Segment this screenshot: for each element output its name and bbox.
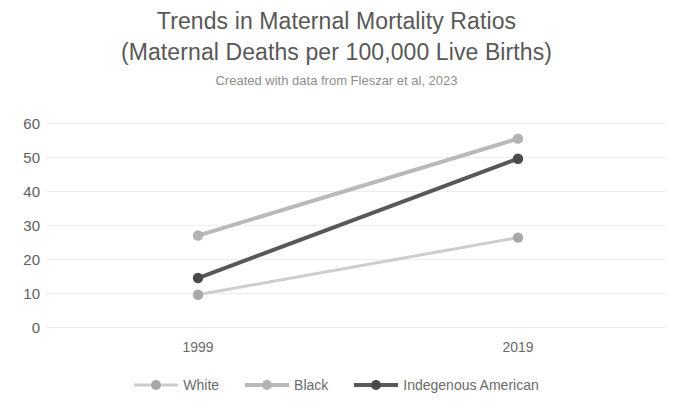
chart-title-line-2: (Maternal Deaths per 100,000 Live Births…	[0, 37, 673, 68]
legend-swatch	[354, 378, 398, 392]
data-point-marker	[513, 232, 523, 242]
chart-container: Trends in Maternal Mortality Ratios (Mat…	[0, 0, 673, 401]
series-group	[193, 232, 523, 300]
data-point-marker	[513, 154, 523, 164]
series-line	[198, 159, 518, 278]
data-point-marker	[193, 273, 203, 283]
series-group	[193, 133, 523, 240]
legend-label: Black	[294, 377, 328, 393]
plot-area: 60 50 40 30 20 10 0	[0, 108, 673, 343]
data-point-marker	[193, 290, 203, 300]
legend-item[interactable]: Black	[245, 377, 328, 393]
data-point-marker	[193, 230, 203, 240]
chart-title-line-1: Trends in Maternal Mortality Ratios	[0, 6, 673, 37]
series-lines	[0, 108, 673, 343]
x-axis: 1999 2019	[0, 338, 673, 362]
x-axis-tick-label: 1999	[182, 338, 213, 356]
series-line	[198, 139, 518, 236]
chart-subtitle: Created with data from Fleszar et al, 20…	[0, 71, 673, 91]
legend-label: Indegenous American	[403, 377, 538, 393]
legend-marker-dot	[371, 380, 381, 390]
legend-label: White	[183, 377, 219, 393]
chart-legend: WhiteBlackIndegenous American	[0, 377, 673, 393]
legend-swatch	[245, 378, 289, 392]
data-point-marker	[513, 133, 523, 143]
legend-swatch	[134, 378, 178, 392]
legend-marker-dot	[262, 380, 272, 390]
x-axis-tick-label: 2019	[502, 338, 533, 356]
legend-item[interactable]: White	[134, 377, 219, 393]
series-line	[198, 238, 518, 295]
chart-title-block: Trends in Maternal Mortality Ratios (Mat…	[0, 6, 673, 91]
series-group	[193, 154, 523, 284]
legend-marker-dot	[151, 380, 161, 390]
legend-item[interactable]: Indegenous American	[354, 377, 538, 393]
